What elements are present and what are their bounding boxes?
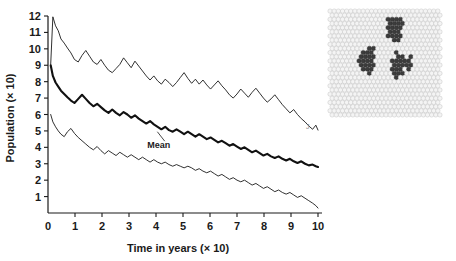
lattice-cell-empty — [396, 88, 400, 92]
lattice-cell-empty — [417, 71, 421, 75]
y-tick-label: 6 — [35, 109, 41, 121]
lattice-cell-occupied — [388, 30, 392, 34]
lattice-cell-empty — [349, 9, 353, 13]
lattice-cell-empty — [434, 113, 438, 117]
lattice-cell-empty — [336, 9, 340, 13]
lattice-cell-empty — [421, 113, 425, 117]
lattice-cell-empty — [353, 100, 357, 104]
lattice-cell-empty — [419, 100, 423, 104]
lattice-cell-empty — [355, 13, 359, 17]
lattice-cell-empty — [409, 79, 413, 83]
lattice-cell-empty — [373, 17, 377, 21]
lattice-cell-empty — [388, 71, 392, 75]
lattice-cell-empty — [396, 96, 400, 100]
lattice-cell-empty — [382, 67, 386, 71]
lattice-cell-empty — [376, 88, 380, 92]
lattice-cell-empty — [340, 92, 344, 96]
lattice-cell-empty — [355, 30, 359, 34]
lattice-cell-empty — [376, 71, 380, 75]
lattice-cell-empty — [394, 42, 398, 46]
lattice-cell-occupied — [394, 17, 398, 21]
lattice-cell-empty — [363, 79, 367, 83]
lattice-cell-empty — [338, 55, 342, 59]
lattice-cell-empty — [328, 84, 332, 88]
lattice-cell-empty — [353, 92, 357, 96]
lattice-cell-occupied — [392, 63, 396, 67]
lattice-cell-empty — [369, 25, 373, 29]
lattice-cell-empty — [371, 96, 375, 100]
lattice-cell-empty — [382, 84, 386, 88]
lattice-cell-empty — [353, 75, 357, 79]
lattice-cell-empty — [371, 71, 375, 75]
lattice-cell-empty — [402, 9, 406, 13]
lattice-cell-empty — [405, 104, 409, 108]
lattice-cell-empty — [396, 104, 400, 108]
lattice-cell-empty — [373, 25, 377, 29]
lattice-cell-empty — [402, 84, 406, 88]
hexagonal-lattice-inset — [328, 9, 442, 117]
lattice-cell-empty — [425, 113, 429, 117]
lattice-cell-empty — [365, 84, 369, 88]
lattice-cell-empty — [384, 46, 388, 50]
lattice-cell-empty — [411, 84, 415, 88]
lattice-cell-empty — [423, 42, 427, 46]
lattice-cell-occupied — [371, 63, 375, 67]
x-tick-label: 9 — [288, 220, 294, 232]
lattice-cell-empty — [336, 109, 340, 113]
lattice-cell-empty — [384, 21, 388, 25]
lattice-cell-empty — [359, 79, 363, 83]
lattice-cell-empty — [342, 13, 346, 17]
lattice-cell-empty — [342, 30, 346, 34]
lattice-cell-empty — [359, 38, 363, 42]
lattice-cell-empty — [432, 50, 436, 54]
lattice-cell-empty — [409, 88, 413, 92]
lattice-cell-empty — [436, 25, 440, 29]
lattice-cell-empty — [342, 55, 346, 59]
lattice-cell-empty — [351, 71, 355, 75]
lattice-cell-empty — [402, 34, 406, 38]
lattice-cell-occupied — [369, 59, 373, 63]
lattice-cell-empty — [434, 63, 438, 67]
lattice-cell-empty — [432, 59, 436, 63]
lattice-cell-empty — [334, 79, 338, 83]
lattice-cell-occupied — [369, 67, 373, 71]
lattice-cell-empty — [438, 46, 442, 50]
lattice-cell-empty — [344, 100, 348, 104]
lattice-cell-empty — [388, 55, 392, 59]
lattice-cell-empty — [419, 50, 423, 54]
lattice-cell-empty — [419, 75, 423, 79]
lattice-cell-empty — [365, 75, 369, 79]
lattice-cell-empty — [338, 38, 342, 42]
lattice-cell-empty — [332, 25, 336, 29]
lattice-cell-empty — [367, 96, 371, 100]
lattice-cell-empty — [355, 55, 359, 59]
y-tick-label: 10 — [29, 43, 41, 55]
lattice-cell-empty — [344, 92, 348, 96]
lattice-cell-empty — [365, 34, 369, 38]
lattice-cell-empty — [427, 17, 431, 21]
lattice-cell-empty — [421, 96, 425, 100]
lattice-cell-empty — [336, 25, 340, 29]
x-tick-label: 1 — [72, 220, 78, 232]
lattice-cell-empty — [394, 92, 398, 96]
lattice-cell-empty — [357, 50, 361, 54]
lattice-cell-empty — [432, 42, 436, 46]
lattice-cell-empty — [386, 109, 390, 113]
lattice-cell-empty — [340, 42, 344, 46]
lattice-cell-empty — [340, 67, 344, 71]
lattice-cell-empty — [382, 92, 386, 96]
lattice-cell-occupied — [361, 59, 365, 63]
lattice-cell-empty — [382, 50, 386, 54]
lattice-cell-empty — [386, 9, 390, 13]
lattice-cell-empty — [411, 42, 415, 46]
lattice-cell-empty — [427, 75, 431, 79]
lattice-cell-empty — [382, 17, 386, 21]
lattice-cell-empty — [409, 113, 413, 117]
x-tick-label: 4 — [153, 220, 160, 232]
lattice-cell-empty — [425, 46, 429, 50]
lattice-cell-empty — [411, 25, 415, 29]
lattice-cell-empty — [351, 21, 355, 25]
lattice-cell-empty — [369, 17, 373, 21]
lattice-cell-empty — [332, 42, 336, 46]
x-tick-label: 10 — [312, 220, 324, 232]
